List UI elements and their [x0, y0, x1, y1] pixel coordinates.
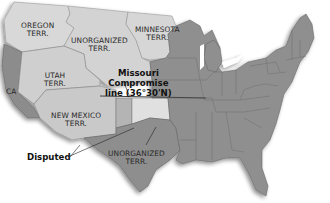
disputed-leader-2: [70, 145, 80, 157]
callout-missouri-compromise: Missouri Compromise line (36°30'N): [105, 68, 172, 98]
label-utah-territory: UTAH TERR.: [44, 72, 66, 89]
label-unorganized-territory-north: UNORGANIZED TERR.: [71, 37, 128, 54]
label-minnesota-territory: MINNESOTA TERR.: [135, 26, 180, 43]
callout-disputed: Disputed: [27, 152, 71, 162]
label-unorganized-territory-south: UNORGANIZED TERR.: [108, 150, 165, 167]
lake-michigan: [200, 44, 204, 70]
label-california: CA: [6, 88, 16, 96]
label-oregon-territory: OREGON TERR.: [21, 22, 54, 39]
us-territories-map: OREGON TERR. UNORGANIZED TERR. MINNESOTA…: [0, 0, 330, 203]
disputed-region: [116, 98, 132, 128]
label-new-mexico-territory: NEW MEXICO TERR.: [51, 112, 101, 129]
lake-erie: [222, 54, 244, 68]
